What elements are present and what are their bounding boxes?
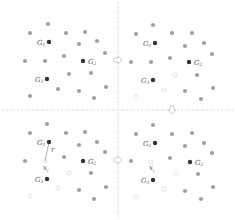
data-point <box>77 188 81 192</box>
reassigned-point <box>28 194 32 198</box>
centroid-g3 <box>45 77 49 81</box>
data-point <box>95 39 99 43</box>
data-point <box>183 189 187 193</box>
centroid-g1 <box>47 140 51 144</box>
data-point <box>183 44 187 48</box>
data-point <box>168 156 172 160</box>
centroid-g3 <box>151 178 155 182</box>
centroid-g2 <box>81 59 85 63</box>
data-point <box>183 89 187 93</box>
data-point <box>129 60 133 64</box>
data-point <box>190 131 194 135</box>
data-point <box>92 197 96 201</box>
centroid-g1 <box>47 40 51 44</box>
centroid-label-g1: G1 <box>37 39 45 48</box>
centroid-g1 <box>153 41 157 45</box>
centroid-g2 <box>81 159 85 163</box>
data-point <box>202 141 206 145</box>
data-point <box>199 97 203 101</box>
centroid-label-g2: G2 <box>194 59 203 68</box>
data-point <box>151 123 155 127</box>
arrow-down-right-icon <box>168 106 176 114</box>
radius-label: r <box>51 146 55 154</box>
centroid-g3 <box>45 177 49 181</box>
reassigned-point <box>56 186 60 190</box>
quadrant-dividers <box>2 2 233 218</box>
data-point <box>28 131 32 135</box>
centroid-label-g2: G2 <box>88 158 97 167</box>
data-point <box>77 89 81 93</box>
reassigned-point <box>162 187 166 191</box>
reassigned-point <box>173 73 177 77</box>
data-point <box>23 59 27 63</box>
centroid-label-g2: G2 <box>195 159 204 168</box>
data-point <box>196 172 200 176</box>
data-point <box>183 144 187 148</box>
data-point <box>64 31 68 35</box>
centroid-label-g1: G1 <box>143 140 151 149</box>
data-point <box>67 72 71 76</box>
data-point <box>151 23 155 27</box>
data-point <box>134 132 138 136</box>
panel-top-right: G1G2G3 <box>129 23 215 101</box>
centroid-g2 <box>188 160 192 164</box>
centroid-label-g3: G3 <box>35 76 44 85</box>
data-point <box>211 185 215 189</box>
data-point <box>104 185 108 189</box>
centroid-label-g1: G1 <box>143 40 151 49</box>
centroid-label-g3: G3 <box>35 176 44 185</box>
data-point <box>43 59 47 63</box>
panels: G1G2G3G1G2G3rG1G2G3xiG1G2G3xi <box>23 22 215 201</box>
reassigned-point <box>134 95 138 99</box>
panel-bottom-left: rG1G2G3xi <box>23 122 108 201</box>
data-point <box>190 31 194 35</box>
data-point <box>56 87 60 91</box>
data-point <box>170 31 174 35</box>
data-point <box>45 122 49 126</box>
data-point <box>92 96 96 100</box>
reassigned-point <box>134 195 138 199</box>
data-point <box>28 94 32 98</box>
data-point <box>62 54 66 58</box>
data-point <box>211 86 215 90</box>
data-point <box>62 155 66 159</box>
centroid-label-g3: G3 <box>141 77 150 86</box>
point-label-xi: xi <box>149 164 155 173</box>
data-point <box>28 31 32 35</box>
centroid-g3 <box>151 78 155 82</box>
data-point <box>89 71 93 75</box>
data-point <box>168 56 172 60</box>
centroid-g1 <box>153 141 157 145</box>
arrow-right-top-icon <box>114 56 122 64</box>
centroid-label-g2: G2 <box>88 58 97 67</box>
data-point <box>104 85 108 89</box>
panel-top-left: G1G2G3 <box>23 22 108 100</box>
data-point <box>199 197 203 201</box>
data-point <box>77 42 81 46</box>
centroid-label-g1: G1 <box>37 139 45 148</box>
data-point <box>83 30 87 34</box>
data-point <box>83 130 87 134</box>
point-label-xi: xi <box>43 164 49 173</box>
data-point <box>210 151 214 155</box>
data-point <box>23 159 27 163</box>
data-point <box>129 159 133 163</box>
data-point <box>46 22 50 26</box>
data-point <box>170 132 174 136</box>
centroid-g2 <box>187 60 191 64</box>
data-point <box>103 51 107 55</box>
reassigned-point <box>162 88 166 92</box>
data-point <box>195 73 199 77</box>
reassigned-point <box>67 171 71 175</box>
data-point <box>134 32 138 36</box>
clustering-diagram: G1G2G3G1G2G3rG1G2G3xiG1G2G3xi <box>0 0 235 220</box>
centroid-label-g3: G3 <box>141 177 150 186</box>
arrow-right-bottom-icon <box>114 156 122 164</box>
data-point <box>202 41 206 45</box>
panel-bottom-right: G1G2G3xi <box>129 123 215 201</box>
reassigned-point <box>174 172 178 176</box>
data-point <box>64 131 68 135</box>
data-point <box>103 150 107 154</box>
data-point <box>77 143 81 147</box>
radius-line <box>45 142 49 161</box>
